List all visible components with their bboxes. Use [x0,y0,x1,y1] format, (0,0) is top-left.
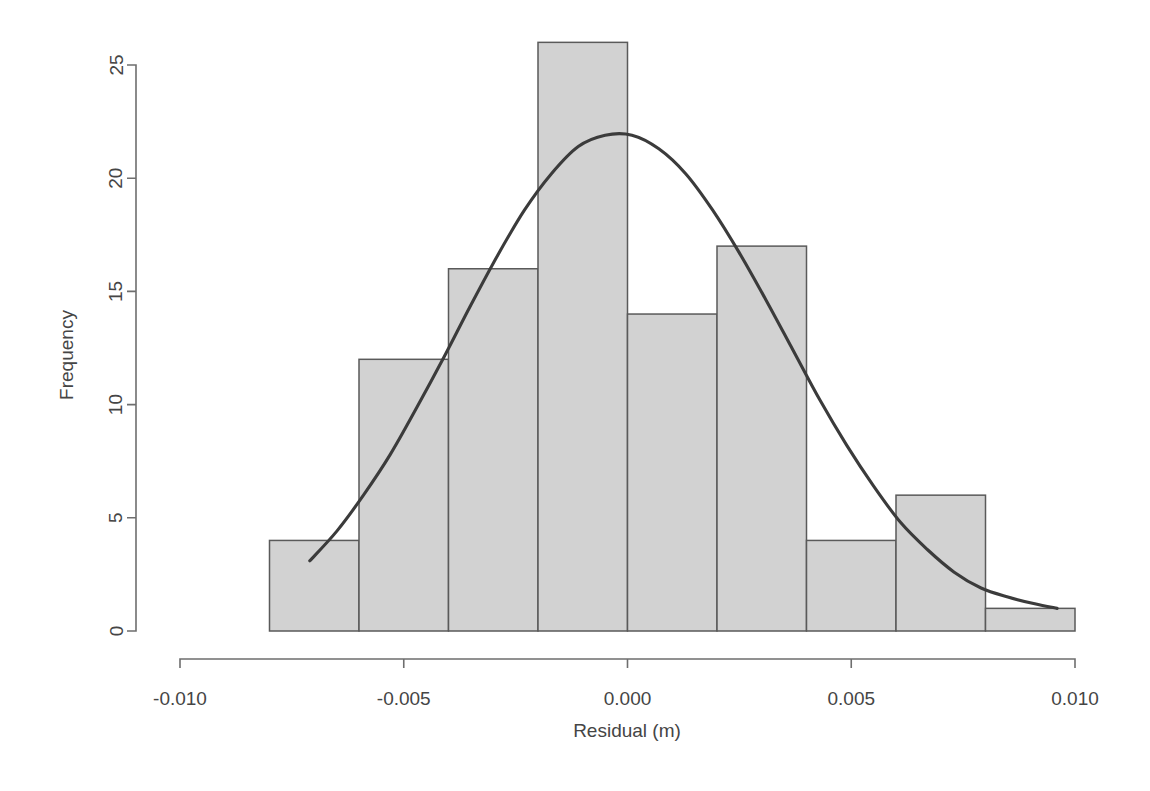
histogram-bar [807,540,897,631]
y-axis-tick-label: 15 [106,281,127,302]
x-axis-tick-label: 0.005 [827,688,875,709]
x-axis-tick-label: 0.010 [1051,688,1099,709]
histogram-bar [359,359,449,631]
x-axis-tick-label: -0.010 [153,688,207,709]
histogram-figure: 0510152025 -0.010-0.0050.0000.0050.010 F… [0,0,1150,791]
histogram-bar [986,608,1076,631]
y-axis-tick-label: 0 [106,626,127,637]
x-axis-tick-label: 0.000 [604,688,652,709]
y-axis-tick-label: 5 [106,513,127,524]
x-axis-tick-label: -0.005 [377,688,431,709]
y-axis-title: Frequency [56,310,77,400]
histogram-bar [628,314,718,631]
histogram-bar [717,246,807,631]
x-axis-title: Residual (m) [573,720,681,741]
y-axis-tick-label: 25 [106,54,127,75]
residual-histogram-chart: 0510152025 -0.010-0.0050.0000.0050.010 F… [0,0,1150,791]
y-axis-tick-label: 20 [106,168,127,189]
y-axis-tick-label: 10 [106,394,127,415]
histogram-bar [538,42,628,631]
